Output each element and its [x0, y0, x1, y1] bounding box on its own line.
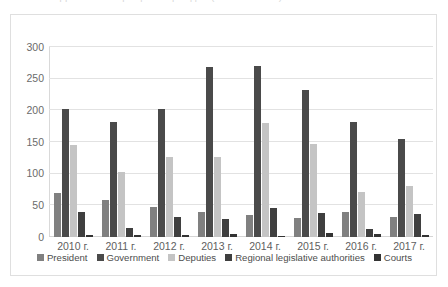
legend-label: Deputies: [178, 253, 216, 263]
bar-group: [49, 47, 97, 237]
chart-frame: 050100150200250300 2010 г.2011 г.2012 г.…: [10, 14, 437, 276]
bar: [366, 229, 373, 237]
bar-group: [385, 47, 433, 237]
x-axis-tick-label: 2014 г.: [241, 240, 289, 252]
bars: [385, 47, 433, 237]
cropped-title-text: Динамика обращений граждан (2010–2017 гг…: [60, 0, 282, 2]
legend-label: Government: [107, 253, 160, 263]
bar: [326, 233, 333, 237]
bar-group: [145, 47, 193, 237]
bar: [182, 235, 189, 237]
bar: [110, 122, 117, 237]
x-axis-labels: 2010 г.2011 г.2012 г.2013 г.2014 г.2015 …: [49, 240, 433, 252]
legend-swatch-icon: [97, 254, 104, 261]
bar: [102, 200, 109, 237]
bars: [241, 47, 289, 237]
bar: [358, 192, 365, 237]
bar: [78, 212, 85, 237]
bar: [230, 234, 237, 237]
bar: [86, 235, 93, 237]
bar: [118, 172, 125, 237]
y-axis-tick-label: 250: [26, 73, 44, 84]
y-axis-tick-label: 0: [38, 231, 44, 242]
bar: [150, 207, 157, 237]
bar: [374, 234, 381, 237]
bar-group: [289, 47, 337, 237]
legend-swatch-icon: [374, 254, 381, 261]
bar: [318, 213, 325, 237]
bar: [206, 67, 213, 237]
x-axis-tick-label: 2010 г.: [49, 240, 97, 252]
bar: [406, 186, 413, 237]
bar: [198, 212, 205, 237]
legend-item[interactable]: Courts: [374, 253, 412, 263]
x-axis-tick-label: 2017 г.: [385, 240, 433, 252]
bar: [414, 214, 421, 237]
bar: [310, 144, 317, 237]
y-axis-tick-label: 200: [26, 105, 44, 116]
legend-item[interactable]: Government: [97, 253, 160, 263]
legend-item[interactable]: Deputies: [168, 253, 216, 263]
x-axis-tick-label: 2013 г.: [193, 240, 241, 252]
bar: [214, 157, 221, 237]
bar-group: [193, 47, 241, 237]
bar: [342, 212, 349, 237]
bar: [166, 157, 173, 237]
bar-chart: Динамика обращений граждан (2010–2017 гг…: [0, 0, 448, 287]
legend-swatch-icon: [225, 254, 232, 261]
bar: [158, 109, 165, 237]
cropped-title: Динамика обращений граждан (2010–2017 гг…: [0, 0, 448, 12]
bars: [49, 47, 97, 237]
bar: [134, 235, 141, 237]
bar: [70, 145, 77, 237]
bar: [174, 217, 181, 237]
bar: [62, 109, 69, 237]
plot-area: 050100150200250300 2010 г.2011 г.2012 г.…: [49, 32, 433, 237]
bars: [145, 47, 193, 237]
bar-group: [97, 47, 145, 237]
bar: [302, 90, 309, 237]
bars: [337, 47, 385, 237]
bars: [97, 47, 145, 237]
bars: [193, 47, 241, 237]
y-axis-tick-label: 50: [32, 200, 44, 211]
bar: [350, 122, 357, 237]
x-axis-tick-label: 2015 г.: [289, 240, 337, 252]
legend-label: President: [47, 253, 88, 263]
bar: [278, 236, 285, 237]
legend-item[interactable]: President: [37, 253, 88, 263]
y-axis-tick-label: 150: [26, 136, 44, 147]
legend-swatch-icon: [37, 254, 44, 261]
bar-groups: [49, 47, 433, 237]
legend-label: Courts: [384, 253, 412, 263]
bar: [270, 208, 277, 237]
bar: [254, 66, 261, 237]
legend-item[interactable]: Regional legislative authorities: [225, 253, 365, 263]
bar: [398, 139, 405, 237]
y-axis-tick-label: 300: [26, 41, 44, 52]
bar: [126, 228, 133, 238]
bar: [422, 235, 429, 237]
bars: [289, 47, 337, 237]
bar: [262, 123, 269, 237]
x-axis-tick-label: 2012 г.: [145, 240, 193, 252]
x-axis-tick-label: 2011 г.: [97, 240, 145, 252]
bar: [222, 219, 229, 237]
x-axis-tick-label: 2016 г.: [337, 240, 385, 252]
bar: [390, 217, 397, 237]
bar: [54, 193, 61, 237]
bar-group: [337, 47, 385, 237]
legend-swatch-icon: [168, 254, 175, 261]
bar: [294, 218, 301, 237]
chart-legend: PresidentGovernmentDeputiesRegional legi…: [11, 253, 438, 263]
legend-label: Regional legislative authorities: [235, 253, 365, 263]
plot-inner: 050100150200250300: [49, 47, 433, 237]
y-axis-tick-label: 100: [26, 168, 44, 179]
bar-group: [241, 47, 289, 237]
bar: [246, 215, 253, 237]
